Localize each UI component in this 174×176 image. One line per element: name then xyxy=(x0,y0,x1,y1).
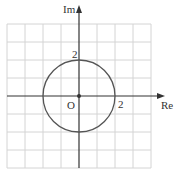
origin-point xyxy=(77,94,81,98)
origin-label: O xyxy=(67,99,75,111)
y-axis-label: Im xyxy=(63,3,76,15)
y-tick-label: 2 xyxy=(72,48,78,60)
axes xyxy=(7,10,160,168)
x-axis-label: Re xyxy=(161,99,173,111)
x-tick-label: 2 xyxy=(118,98,124,110)
argand-diagram: Im Re O 2 2 xyxy=(0,0,174,176)
imaginary-axis-arrow-icon xyxy=(76,5,82,13)
